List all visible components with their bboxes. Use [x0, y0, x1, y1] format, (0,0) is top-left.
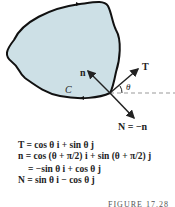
label-C: C: [65, 85, 72, 95]
label-T: T: [142, 62, 149, 72]
equation-T: T = cos θ i + sin θ j: [18, 141, 94, 151]
figure-caption: FIGURE 17.28: [108, 200, 169, 207]
normal-vector-N: [110, 93, 134, 118]
equation-n-simplified: = −sin θ i + cos θ j: [28, 165, 101, 175]
region-curve: [7, 2, 120, 98]
label-theta: θ: [126, 83, 130, 92]
angle-arc: [120, 86, 122, 93]
equation-n: n = cos (θ + π/2) i + sin (θ + π/2) j: [18, 152, 151, 162]
equation-N: N = sin θ i − cos θ j: [18, 176, 95, 186]
label-N: N = −n: [118, 122, 147, 132]
label-n: n: [80, 68, 86, 78]
